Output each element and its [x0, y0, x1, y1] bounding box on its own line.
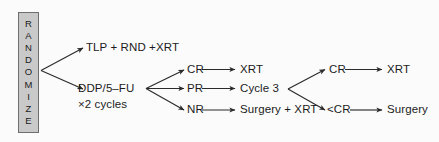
node-pr-outcome-cycle3: Cycle 3	[240, 82, 279, 95]
node-arm-b-regimen: DDP/5–FU	[78, 82, 134, 95]
randomize-letter-i: I	[27, 91, 30, 103]
edge-randomize-to-arm-a	[41, 48, 83, 71]
node-second-cr: CR	[329, 63, 346, 76]
randomize-letter-a: A	[25, 30, 31, 42]
node-arm-b-cycles: ×2 cycles	[78, 97, 127, 111]
node-nr-outcome-surgery-xrt: Surgery + XRT	[240, 103, 317, 116]
node-response-pr: PR	[187, 82, 203, 95]
randomize-box: R A N D O M I Z E	[18, 12, 39, 133]
randomize-letter-m: M	[25, 79, 33, 91]
node-second-lt-cr-outcome-surgery: Surgery	[387, 103, 428, 116]
edge-armb-to-nr	[146, 89, 184, 111]
node-arm-a: TLP + RND +XRT	[86, 41, 179, 54]
randomize-letter-e: E	[25, 115, 31, 127]
treatment-flow-diagram: R A N D O M I Z E TLP + RND +XRT DDP/5–F…	[0, 0, 439, 142]
randomize-letter-z: Z	[26, 103, 32, 115]
node-response-cr: CR	[187, 63, 204, 76]
randomize-letter-n: N	[25, 42, 32, 54]
node-second-lt-cr: <CR	[327, 103, 351, 116]
arrow-layer	[0, 0, 439, 142]
edge-randomize-to-arm-b	[41, 71, 83, 90]
node-response-nr: NR	[187, 103, 204, 116]
edge-cycle3-to-second-cr	[288, 70, 325, 90]
randomize-letter-d: D	[25, 54, 32, 66]
node-second-cr-outcome-xrt: XRT	[387, 63, 410, 76]
randomize-letter-r: R	[25, 18, 32, 30]
edge-armb-to-cr	[146, 70, 184, 89]
node-cr-outcome-xrt: XRT	[240, 63, 263, 76]
randomize-letter-o: O	[25, 66, 32, 78]
